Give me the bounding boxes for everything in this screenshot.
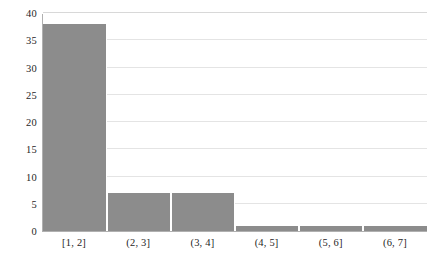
x-axis-tick-label: (6, 7]	[363, 236, 427, 254]
bar-slot	[43, 14, 107, 231]
bar-slot	[235, 14, 299, 231]
y-axis: 0510152025303540	[0, 14, 37, 232]
y-axis-tick-label: 5	[0, 200, 37, 210]
bar-slot	[107, 14, 171, 231]
y-axis-tick-label: 0	[0, 227, 37, 237]
bars-layer	[43, 14, 427, 231]
bar[interactable]	[299, 226, 363, 231]
y-axis-tick-label: 40	[0, 9, 37, 19]
bar[interactable]	[235, 226, 299, 231]
plot-area	[42, 14, 427, 232]
gridline	[43, 12, 427, 13]
y-axis-tick-label: 20	[0, 118, 37, 128]
x-axis-tick-label: (2, 3]	[106, 236, 170, 254]
x-axis-tick-label: (3, 4]	[170, 236, 234, 254]
bar-slot	[171, 14, 235, 231]
x-axis-tick-label: (5, 6]	[299, 236, 363, 254]
bar[interactable]	[363, 226, 427, 231]
y-axis-tick-label: 35	[0, 36, 37, 46]
bar[interactable]	[43, 24, 107, 231]
y-axis-tick-label: 10	[0, 173, 37, 183]
bar-slot	[363, 14, 427, 231]
x-axis: [1, 2](2, 3](3, 4](4, 5](5, 6](6, 7]	[42, 236, 427, 254]
x-axis-tick-label: [1, 2]	[42, 236, 106, 254]
y-axis-tick-label: 15	[0, 145, 37, 155]
bar[interactable]	[107, 193, 171, 231]
x-axis-tick-label: (4, 5]	[235, 236, 299, 254]
y-axis-tick-label: 30	[0, 64, 37, 74]
histogram-chart: 0510152025303540 [1, 2](2, 3](3, 4](4, 5…	[0, 0, 437, 274]
bar[interactable]	[171, 193, 235, 231]
bar-slot	[299, 14, 363, 231]
y-axis-tick-label: 25	[0, 91, 37, 101]
